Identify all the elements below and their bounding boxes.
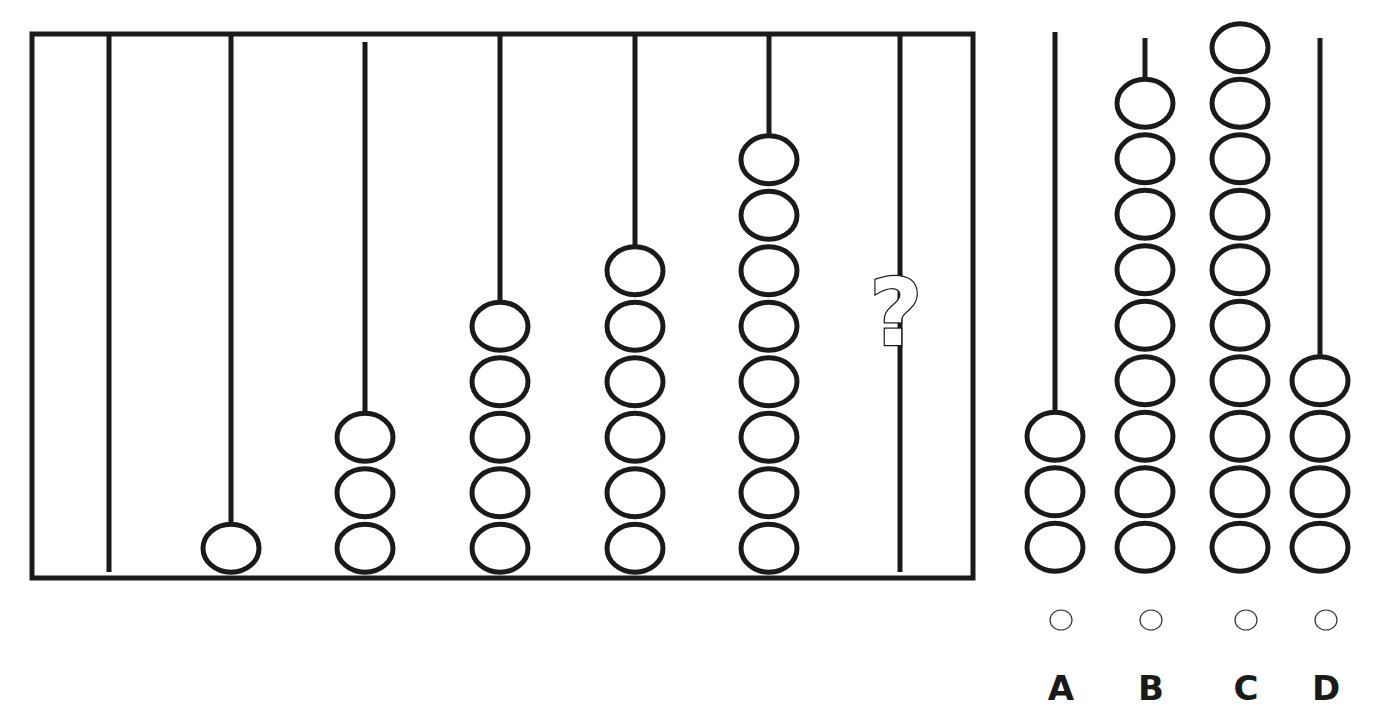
bead [1212, 357, 1268, 405]
abacus-rods: ? [109, 36, 923, 572]
bead [1117, 190, 1173, 238]
option-d-label[interactable]: D [1312, 668, 1340, 708]
abacus-rod-7: ? [869, 36, 922, 572]
option-b-label[interactable]: B [1138, 668, 1164, 708]
bead [1212, 301, 1268, 349]
abacus-rod-2 [203, 36, 259, 572]
bead [1117, 357, 1173, 405]
option-a-label[interactable]: A [1048, 668, 1075, 708]
bead [1212, 246, 1268, 294]
bead [607, 358, 663, 406]
question-mark-icon: ? [869, 260, 922, 367]
bead [1117, 468, 1173, 516]
bead [472, 524, 528, 572]
bead [741, 191, 797, 239]
option-d-abacus [1292, 38, 1348, 571]
bead [472, 358, 528, 406]
bead [1212, 190, 1268, 238]
bead [741, 136, 797, 184]
bead [1212, 24, 1268, 72]
bead [1027, 523, 1083, 571]
abacus-rod-5 [607, 36, 663, 572]
bead [1292, 412, 1348, 460]
bead [1292, 468, 1348, 516]
abacus-rod-3 [337, 42, 393, 572]
bead [1212, 523, 1268, 571]
bead [1292, 357, 1348, 405]
bead [1027, 468, 1083, 516]
option-b-radio[interactable] [1140, 610, 1162, 630]
bead [1212, 412, 1268, 460]
option-a-radio[interactable] [1050, 610, 1072, 630]
bead [1117, 301, 1173, 349]
bead [1292, 523, 1348, 571]
option-c-radio[interactable] [1235, 610, 1257, 630]
bead [607, 247, 663, 295]
bead [741, 413, 797, 461]
option-c-label[interactable]: C [1234, 668, 1259, 708]
bead [472, 413, 528, 461]
bead [741, 524, 797, 572]
bead [607, 302, 663, 350]
bead [337, 524, 393, 572]
bead [741, 247, 797, 295]
bead [1027, 412, 1083, 460]
bead [1212, 468, 1268, 516]
bead [1117, 523, 1173, 571]
bead [1117, 246, 1173, 294]
option-a-abacus [1027, 32, 1083, 571]
option-b-abacus [1117, 38, 1173, 571]
bead [203, 524, 259, 572]
bead [607, 413, 663, 461]
bead [741, 358, 797, 406]
bead [337, 413, 393, 461]
option-d-radio[interactable] [1315, 610, 1337, 630]
bead [1117, 79, 1173, 127]
bead [607, 524, 663, 572]
option-c-abacus [1212, 23, 1268, 571]
bead [472, 469, 528, 517]
bead [741, 469, 797, 517]
bead [1212, 135, 1268, 183]
bead [1212, 79, 1268, 127]
abacus-rod-4 [472, 36, 528, 572]
bead [337, 469, 393, 517]
bead [472, 302, 528, 350]
bead [741, 302, 797, 350]
answer-options: ABCD [1027, 23, 1348, 708]
bead [1117, 412, 1173, 460]
bead [1117, 135, 1173, 183]
bead [607, 469, 663, 517]
abacus-rod-6 [741, 36, 797, 572]
abacus-puzzle: ? ABCD [0, 0, 1374, 716]
